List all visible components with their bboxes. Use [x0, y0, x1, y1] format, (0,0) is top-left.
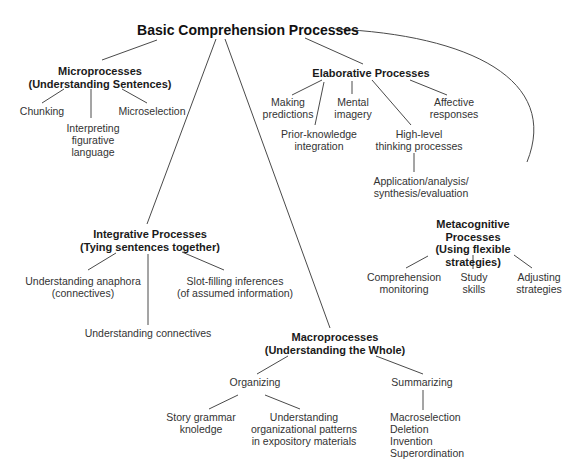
- prior-knowledge-integration-node: Prior-knowledge integration: [281, 128, 357, 152]
- high-level-thinking-node: High-level thinking processes: [376, 128, 463, 152]
- application-analysis-node: Application/analysis/ synthesis/evaluati…: [373, 175, 468, 199]
- understanding-anaphora-node: Understanding anaphora (connectives): [25, 275, 141, 299]
- mental-imagery-node: Mental imagery: [334, 96, 371, 120]
- elaborative-processes-node: Elaborative Processes: [312, 67, 429, 80]
- chunking-node: Chunking: [20, 105, 64, 117]
- comprehension-monitoring-node: Comprehension monitoring: [367, 271, 441, 295]
- story-grammar-knowledge-node: Story grammar knoledge: [166, 411, 235, 435]
- microselection-node: Microselection: [118, 105, 185, 117]
- affective-responses-node: Affective responses: [430, 96, 478, 120]
- summarizing-node: Summarizing: [391, 376, 452, 388]
- concept-map: Basic Comprehension Processes Microproce…: [0, 0, 583, 472]
- root-node: Basic Comprehension Processes: [137, 22, 359, 38]
- metacognitive-processes-node: Metacognitive Processes (Using flexible …: [418, 218, 528, 268]
- interpreting-figurative-language-node: Interpreting figurative language: [66, 122, 119, 158]
- study-skills-node: Study skills: [461, 271, 488, 295]
- summarizing-techniques-list: Macroselection Deletion Invention Supero…: [390, 411, 464, 459]
- organizational-patterns-node: Understanding organizational patterns in…: [251, 411, 357, 447]
- organizing-node: Organizing: [230, 376, 281, 388]
- understanding-connectives-node: Understanding connectives: [85, 327, 212, 339]
- slot-filling-inferences-node: Slot-filling inferences (of assumed info…: [177, 275, 293, 299]
- adjusting-strategies-node: Adjusting strategies: [516, 271, 562, 295]
- macroprocesses-node: Macroprocesses (Understanding the Whole): [265, 331, 406, 356]
- integrative-processes-node: Integrative Processes (Tying sentences t…: [80, 228, 220, 253]
- making-predictions-node: Making predictions: [263, 96, 314, 120]
- microprocesses-node: Microprocesses (Understanding Sentences): [28, 65, 171, 90]
